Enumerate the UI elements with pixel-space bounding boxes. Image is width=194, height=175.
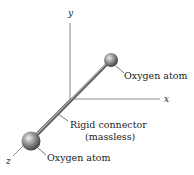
bottom-atom-leader [38,148,46,155]
y-axis-label: y [67,8,74,18]
bottom-oxygen-atom [22,132,41,151]
oxygen-molecule-diagram: y x z Oxygen atom Rigid connector (massl… [0,0,194,175]
top-atom-leader [116,66,124,73]
top-atom-label: Oxygen atom [124,70,188,81]
top-oxygen-atom [104,53,118,67]
z-axis-label: z [5,156,11,166]
connector-label-line1: Rigid connector [70,119,147,130]
z-axis [13,99,70,156]
connector-leader [58,114,68,121]
bottom-atom-label: Oxygen atom [47,152,111,163]
connector-label-line2: (massless) [85,131,135,142]
x-axis-label: x [164,94,169,104]
